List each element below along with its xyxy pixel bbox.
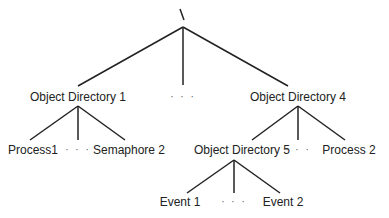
od4-ellipsis: · · ·	[285, 145, 311, 155]
od1-ellipsis: · · ·	[65, 145, 91, 155]
node-object-directory-5: Object Directory 5	[194, 144, 290, 156]
root-slash	[180, 9, 184, 20]
tree-edge	[78, 106, 125, 140]
node-process-2: Process 2	[322, 144, 375, 156]
node-event-1: Event 1	[160, 196, 201, 208]
node-semaphore-2: Semaphore 2	[93, 144, 165, 156]
node-object-directory-1: Object Directory 1	[30, 91, 126, 103]
tree-edge	[30, 106, 78, 140]
tree-edge	[234, 160, 280, 193]
tree-edge	[298, 106, 345, 140]
tree-edge	[183, 27, 288, 86]
node-object-directory-4: Object Directory 4	[250, 91, 346, 103]
tree-edges	[0, 0, 389, 218]
node-process1: Process1	[8, 144, 58, 156]
tree-edge	[252, 106, 298, 140]
node-event-2: Event 2	[263, 196, 304, 208]
root-ellipsis: · · ·	[170, 92, 196, 102]
directory-tree-diagram: Object Directory 1 · · · Object Director…	[0, 0, 389, 218]
tree-edge	[78, 27, 183, 86]
od5-ellipsis: · · ·	[221, 197, 247, 207]
tree-edge	[187, 160, 234, 193]
